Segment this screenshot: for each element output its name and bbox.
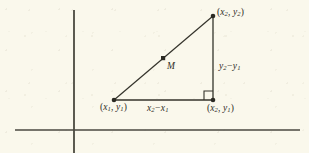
label-close-paren: ) — [241, 7, 244, 17]
label-vertical-leg: y2−y1 — [219, 62, 241, 72]
label-lower-left-point: (x1, y1) — [100, 103, 127, 113]
diagram-canvas — [0, 0, 309, 153]
label-horizontal-leg: x2−x1 — [147, 104, 169, 114]
upper-right-vertex-dot — [211, 14, 216, 19]
lower-right-vertex-dot — [211, 98, 216, 103]
label-lower-right-point: (x2, y1) — [207, 104, 234, 114]
label-midpoint: M — [167, 62, 175, 72]
midpoint-dot — [161, 56, 165, 60]
label-subscript: 1 — [165, 106, 168, 113]
distance-formula-figure: (x1, y1) (x2, y2) (x2, y1) x2−x1 y2−y1 M — [0, 0, 309, 153]
label-upper-right-point: (x2, y2) — [217, 8, 244, 18]
label-close-paren: ) — [124, 102, 127, 112]
label-close-paren: ) — [231, 103, 234, 113]
label-subscript: 1 — [237, 64, 240, 71]
